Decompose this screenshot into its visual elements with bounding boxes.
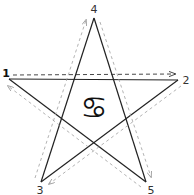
point-label-4: 4 xyxy=(91,4,98,15)
point-label-5: 5 xyxy=(148,185,155,195)
point-label-2: 2 xyxy=(183,75,190,86)
cancer-zodiac-icon: ♋ xyxy=(81,93,108,123)
arrow-1-to-2 xyxy=(13,74,175,75)
arrow-5-to-1 xyxy=(8,86,141,187)
arrow-2-to-3 xyxy=(49,86,181,184)
point-label-3: 3 xyxy=(37,185,44,195)
edge-5-1 xyxy=(9,79,146,182)
edge-1-2 xyxy=(9,79,178,80)
pentagram-diagram: 1 2 3 4 5 ♋ xyxy=(0,0,194,194)
point-label-1: 1 xyxy=(2,68,10,79)
